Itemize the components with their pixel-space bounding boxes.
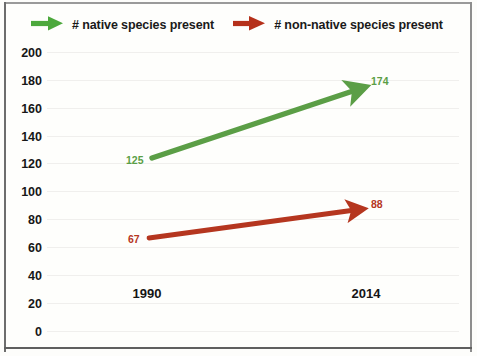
- gridline: [47, 80, 459, 81]
- gridline: [47, 108, 459, 109]
- frame-border-left: [4, 2, 6, 352]
- y-axis-tick-label: 200: [8, 47, 42, 60]
- data-label-non-native-2014: 88: [371, 199, 383, 210]
- y-axis-tick-label: 20: [8, 298, 42, 311]
- gridline: [47, 163, 459, 164]
- gridline: [47, 247, 459, 248]
- frame-border-top: [4, 2, 472, 4]
- gridline: [47, 52, 459, 53]
- frame-border-bottom: [4, 347, 472, 349]
- gridline: [47, 191, 459, 192]
- legend-item-non-native[interactable]: # non-native species present: [232, 14, 443, 36]
- y-axis-tick-label: 120: [8, 158, 42, 171]
- legend-item-native[interactable]: # native species present: [30, 14, 214, 36]
- arrow-right-icon: [232, 14, 268, 36]
- legend-label-non-native: # non-native species present: [274, 18, 443, 32]
- gridline: [47, 303, 459, 304]
- gridline: [47, 136, 459, 137]
- chart-screenshot: # native species present # non-native sp…: [0, 0, 477, 356]
- x-axis-tick-label-2014: 2014: [336, 287, 396, 300]
- y-axis-tick-label: 160: [8, 103, 42, 116]
- arrow-right-icon: [30, 14, 66, 36]
- gridline: [47, 331, 459, 332]
- gridline: [47, 219, 459, 220]
- x-axis-tick-label-1990: 1990: [117, 287, 177, 300]
- plot-area: [47, 44, 459, 339]
- data-label-native-2014: 174: [371, 76, 389, 87]
- y-axis-tick-label: 100: [8, 186, 42, 199]
- y-axis-tick-label: 140: [8, 131, 42, 144]
- frame-border-right: [470, 2, 472, 352]
- legend-label-native: # native species present: [72, 18, 214, 32]
- y-axis-tick-label: 40: [8, 270, 42, 283]
- chart-legend: # native species present # non-native sp…: [30, 12, 443, 38]
- y-axis-tick-label: 60: [8, 242, 42, 255]
- y-axis-tick-label: 180: [8, 75, 42, 88]
- y-axis-tick-label: 80: [8, 214, 42, 227]
- gridline: [47, 275, 459, 276]
- data-label-native-1990: 125: [126, 155, 144, 166]
- data-label-non-native-1990: 67: [128, 234, 140, 245]
- y-axis-tick-label: 0: [8, 326, 42, 339]
